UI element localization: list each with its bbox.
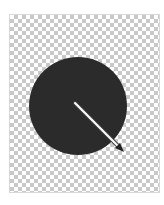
drawing-layer[interactable]	[0, 0, 164, 205]
